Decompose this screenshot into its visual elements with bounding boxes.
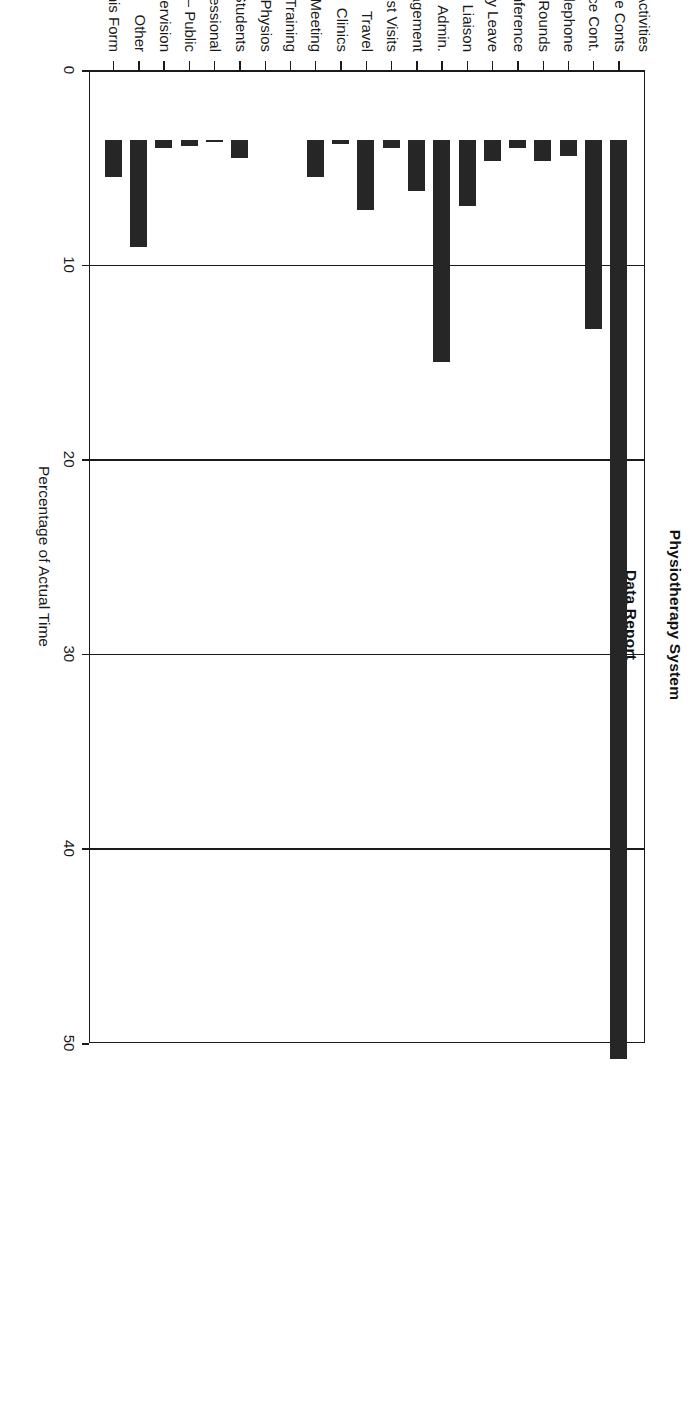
category-axis-label: Telephone <box>561 0 578 61</box>
chart-figure: Physiotherapy System Data Report 0102030… <box>0 0 692 1419</box>
gridline <box>90 848 644 849</box>
category-axis-label: Liaison <box>460 4 477 61</box>
category-axis-tick-mark <box>543 61 544 70</box>
bar <box>181 140 198 146</box>
category-axis-tick-mark <box>340 61 341 70</box>
value-axis-title: Percentage of Actual Time <box>35 466 53 647</box>
category-axis-label: Travel <box>359 11 376 61</box>
bar <box>585 140 602 329</box>
value-axis-tick-mark <box>82 654 89 656</box>
page-title: Physiotherapy System <box>666 400 684 830</box>
plot-area <box>90 70 644 1042</box>
bar <box>459 140 476 206</box>
value-axis-tick-mark <box>82 459 89 461</box>
category-axis-tick-mark <box>568 61 569 70</box>
value-axis-tick-mark <box>82 1043 89 1045</box>
category-axis-label: – Public <box>182 0 199 61</box>
gridline <box>90 459 644 460</box>
category-axis-label: Case Conference <box>510 0 527 61</box>
category-axis-tick-mark <box>163 61 164 70</box>
category-axis-tick-mark <box>315 61 316 70</box>
value-axis-tick-label: 50 <box>61 1035 78 1052</box>
value-axis-tick-mark <box>82 848 89 850</box>
category-axis-label: Completing this Form <box>106 0 123 61</box>
bar <box>206 140 223 142</box>
category-axis-label: Staff/Team Meeting <box>308 0 325 61</box>
category-axis-label: Group Face/Face Cont. <box>586 0 603 61</box>
category-axis-tick-mark <box>618 61 619 70</box>
category-axis-tick-mark <box>467 61 468 70</box>
bar <box>105 140 122 177</box>
value-axis-tick-mark <box>82 265 89 267</box>
value-axis-tick-mark <box>82 70 89 72</box>
value-axis-tick-label: 30 <box>61 645 78 662</box>
category-axis-label: Study Leave <box>485 0 502 61</box>
category-axis-tick-mark <box>239 61 240 70</box>
bar <box>155 140 172 148</box>
gridline <box>90 1043 644 1044</box>
category-axis-title: Activities <box>635 0 652 61</box>
bar <box>610 140 627 1059</box>
bar <box>307 140 324 177</box>
bar <box>231 140 248 158</box>
category-axis-tick-mark <box>138 61 139 70</box>
category-axis-tick-mark <box>593 61 594 70</box>
bar <box>560 140 577 156</box>
bar <box>130 140 147 247</box>
category-axis-tick-mark <box>113 61 114 70</box>
category-axis-label: – Health Professional <box>207 0 224 61</box>
category-axis-label: Admin. <box>434 5 451 61</box>
gridline <box>90 265 644 266</box>
value-axis-tick-label: 10 <box>61 256 78 273</box>
bar <box>433 140 450 362</box>
value-axis-tick-label: 0 <box>61 66 78 74</box>
category-axis-label: In Service Training <box>283 0 300 61</box>
category-axis-tick-mark <box>189 61 190 70</box>
category-axis-label: Management <box>409 0 426 61</box>
category-axis-tick-mark <box>214 61 215 70</box>
category-axis-label: – Students <box>232 0 249 61</box>
bar <box>484 140 501 161</box>
value-axis-baseline <box>89 70 645 72</box>
category-axis-label: Home Assesst Visits <box>384 0 401 61</box>
value-axis-tick-label: 40 <box>61 840 78 857</box>
category-axis-label: Ward Rounds <box>535 0 552 61</box>
bar <box>383 140 400 148</box>
category-axis-tick-mark <box>416 61 417 70</box>
category-axis-tick-mark <box>441 61 442 70</box>
category-axis-tick-mark <box>366 61 367 70</box>
category-axis-tick-mark <box>517 61 518 70</box>
bar <box>509 140 526 148</box>
bar <box>534 140 551 161</box>
category-axis-label: Clinics <box>333 8 350 61</box>
category-axis-label: Clinical Supervision <box>156 0 173 61</box>
category-axis-tick-mark <box>265 61 266 70</box>
category-axis-label: Other <box>131 14 148 61</box>
category-axis-tick-mark <box>391 61 392 70</box>
plot-frame <box>89 70 645 1043</box>
bar <box>408 140 425 191</box>
category-axis-tick-mark <box>492 61 493 70</box>
category-axis-label: Teaching – Physios <box>257 0 274 61</box>
value-axis-tick-label: 20 <box>61 451 78 468</box>
gridline <box>90 654 644 655</box>
category-axis-tick-mark <box>290 61 291 70</box>
bar <box>358 140 375 210</box>
bar <box>332 140 349 144</box>
category-axis-label: Ind. Face/Face Conts <box>611 0 628 61</box>
